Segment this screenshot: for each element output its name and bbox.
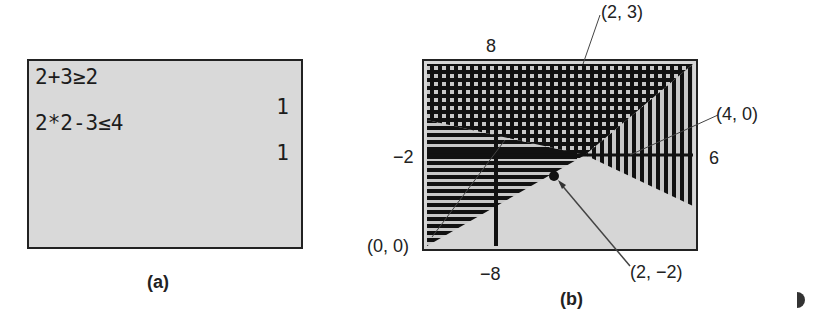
test-point xyxy=(549,171,559,181)
annotation-0-0: (0, 0) xyxy=(367,236,409,257)
annotation-4-0: (4, 0) xyxy=(716,104,758,125)
caption-b: (b) xyxy=(560,289,583,310)
tick-label-top: 8 xyxy=(486,36,496,57)
annotation-2-neg2: (2, −2) xyxy=(630,262,683,283)
tick-label-left: −2 xyxy=(393,147,414,168)
tick-label-bottom: −8 xyxy=(480,264,501,285)
annotation-2-3: (2, 3) xyxy=(601,2,643,23)
tick-label-right: 6 xyxy=(709,148,719,169)
